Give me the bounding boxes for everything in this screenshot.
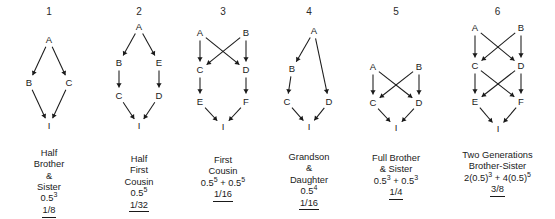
node-label-F: F [243,96,249,107]
pedigree-graph-1: ABCI [9,22,89,142]
arrowhead [197,57,202,61]
panel-caption: Full Brother& Sister0.53 + 0.531/4 [352,153,440,200]
pedigree-graph-3: ABCDEFI [187,22,259,142]
formula-term-2-exponent: 5 [527,171,531,178]
edge-E-to-D [156,71,161,88]
arrowhead [197,89,202,93]
graph-container: ABCDEFI [180,22,266,142]
caption-line: Half [0,148,98,159]
node-label-I: I [48,120,51,131]
pedigree-panel-3: 3ABCDEFIFirstCousin0.55 + 0.551/16 [180,0,266,219]
arrowhead [518,53,523,57]
caption-formula: 2(0.5)3 + 4(0.5)5 [440,173,555,184]
edge-B-to-I [32,90,46,118]
node-label-A: A [311,25,318,36]
edge-B-to-C [286,76,291,93]
formula-term-2-exponent: 5 [241,176,245,183]
inbreeding-coefficient: 1/32 [129,200,149,213]
arrowhead [509,92,514,97]
node-label-E: E [471,96,477,107]
inbreeding-coefficient: 1/8 [42,205,57,218]
edge-C-to-E [472,74,477,94]
graph-container: ABECDI [98,22,180,142]
caption-formula: 0.53 [0,193,98,204]
pedigree-graph-6: ABCDEFI [462,22,534,142]
node-label-C: C [284,96,291,107]
caption-line: Cousin [98,177,180,188]
caption-result-line: 1/16 [266,197,352,210]
edge-C-to-E [197,78,202,94]
caption-line: & [0,171,98,182]
caption-line: & Sister [352,164,440,175]
caption-line: Brother-Sister [440,161,555,172]
edge-A-to-E [143,34,155,56]
panel-caption: HalfBrother&Sister0.531/8 [0,148,98,218]
graph-container: ABCDI [266,22,352,142]
edge-D-to-I [314,108,324,121]
arrowhead [518,89,523,93]
caption-formula: 0.54 [266,186,352,197]
node-label-F: F [518,96,524,107]
node-label-A: A [370,61,377,72]
inbreeding-coefficient: 1/16 [213,189,233,202]
edge-D-to-I [144,102,155,119]
formula-term-2-base: 0.5 [401,176,414,186]
edge-F-to-I [229,108,241,121]
node-label-I: I [496,123,499,134]
node-label-D: D [517,60,524,71]
pedigree-panel-5: 5ABCDIFull Brother& Sister0.53 + 0.531/4 [352,0,440,219]
node-label-D: D [243,64,250,75]
edge-A-to-D [316,38,329,93]
arrowhead [116,83,121,87]
edge-E-to-I [479,108,492,123]
caption-result-line: 1/16 [180,189,266,202]
node-label-B: B [416,61,422,72]
inbreeding-coefficient: 1/4 [389,187,404,200]
edge-A-to-C [370,75,375,95]
pedigree-graph-2: ABECDI [106,22,172,142]
inbreeding-coefficient: 3/8 [490,184,505,197]
arrowhead [324,89,329,94]
panel-number: 3 [180,6,266,18]
formula-term-1-base: 0.5 [131,188,144,198]
edge-A-to-C [197,41,202,62]
node-label-C: C [370,97,377,108]
formula-term-1-base: 0.5 [41,193,54,203]
pedigree-graph-5: ABCDI [360,22,432,142]
caption-line: & [266,163,352,174]
edge-A-to-B [296,37,310,61]
panel-number: 4 [266,6,352,18]
graph-container: ABCDI [352,22,440,142]
edge-A-to-C [52,47,66,75]
panel-caption: Grandson&Daughter0.541/16 [266,152,352,210]
caption-line: Half [98,154,180,165]
pedigree-figure: 1ABCIHalfBrother&Sister0.531/82ABECDIHal… [0,0,555,219]
node-label-D: D [326,96,333,107]
caption-result-line: 3/8 [440,184,555,197]
panel-number: 1 [0,6,98,18]
arrowhead [370,90,375,94]
graph-container: ABCDEFI [440,22,555,142]
node-label-I: I [308,121,311,132]
pedigree-panel-2: 2ABECDIHalfFirstCousin0.551/32 [98,0,180,219]
pedigree-graph-4: ABCDI [274,22,344,142]
caption-line: Full Brother [352,153,440,164]
node-label-C: C [471,60,478,71]
node-label-A: A [197,27,204,38]
edge-C-to-I [123,102,134,119]
formula-term-2-exponent: 3 [414,174,418,181]
node-label-E: E [156,57,162,68]
node-label-C: C [66,77,73,88]
caption-line: Sister [0,182,98,193]
node-label-B: B [116,57,122,68]
node-label-D: D [156,90,163,101]
formula-term-1-base: 2(0.5) [464,173,488,183]
formula-term-1-exponent: 4 [314,184,318,191]
node-label-C: C [116,90,123,101]
panel-caption: Two GenerationsBrother-Sister2(0.5)3 + 4… [440,150,555,197]
node-label-B: B [26,77,32,88]
formula-term-1-exponent: 5 [144,186,148,193]
edge-B-to-C [116,71,121,88]
edge-E-to-I [205,108,217,121]
arrowhead [472,89,477,93]
